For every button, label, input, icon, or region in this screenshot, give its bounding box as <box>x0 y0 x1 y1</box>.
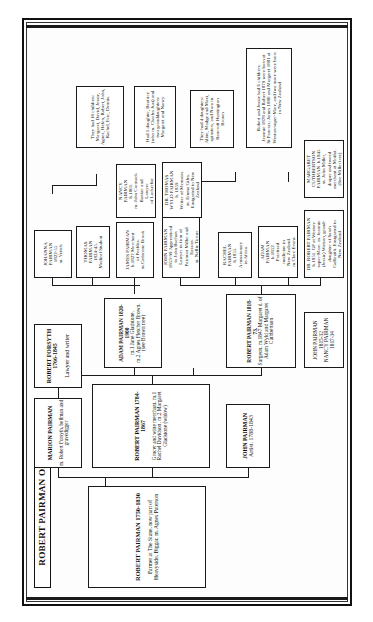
person-box-john-artist: JOHN PAIRMAN Artist. 1788-1843 <box>226 404 270 468</box>
person-box-adam-1852: ADAMPAIRMANb.1852Practisedmedicine inNew… <box>258 226 298 278</box>
connector <box>58 388 59 398</box>
chart-viewport: ROBERT PAIRMAN OF BIGGAR <box>30 28 344 594</box>
chart-canvas: ROBERT PAIRMAN OF BIGGAR <box>30 28 344 594</box>
connector <box>58 468 59 478</box>
connector <box>235 172 236 182</box>
connector-bus-g3b <box>52 285 140 286</box>
genealogy-chart-page: ROBERT PAIRMAN OF BIGGAR <box>0 0 373 622</box>
person-box-james-1827: JAMES PAIRMANb.1827 Merchantof Peebles.m… <box>116 222 154 278</box>
connector <box>261 286 262 294</box>
person-box-root: ROBERT PAIRMAN 1750-1830 Farmer at The S… <box>88 486 206 588</box>
connector <box>134 368 135 376</box>
connector <box>152 376 153 384</box>
person-box-robert-forsyth: ROBERT FORSYTH 1766-1845 Lawyer and writ… <box>34 324 82 388</box>
person-box-thomas-wyld: DR. THOMASWYLD PAIRMANb. 1859Writer of M… <box>162 162 202 218</box>
person-box-robert-surgeon: ROBERT PAIRMAN 1818-73. Surgeon. m.1847 … <box>226 294 296 368</box>
person-box-marion: MARION PAIRMAN m. Robert Forsyth, bellma… <box>34 398 82 468</box>
connector <box>92 278 93 286</box>
person-box-nancy-1861: NANCYPAIRMANb.1861.m. John CormackBanker… <box>116 164 156 218</box>
note-box-six-children: Robert and Jessie had 6 children:Jeannie… <box>246 48 292 148</box>
bottom-rule <box>26 597 348 600</box>
connector <box>152 468 153 478</box>
connector <box>52 185 96 186</box>
note-box-one-daughter: Had 1 daughter, Beatrice(who m. Charles … <box>134 86 176 148</box>
connector-bus-g3a <box>180 285 320 286</box>
connector <box>52 186 53 194</box>
person-box-margaret-cuthbertson: MARGARETCUTHBERTSONPAIRMAN. b.1845m. Joh… <box>304 140 344 198</box>
connector-bus-g1 <box>58 477 248 478</box>
connector <box>235 278 236 286</box>
connector <box>105 478 106 486</box>
person-box-thomas-1824: THOMASPAIRMAN1824-45.Medical Student <box>76 226 110 278</box>
connector <box>193 368 194 376</box>
person-box-rachel: RACHELPAIRMANb.1855.A missionaryin Afric… <box>218 232 252 278</box>
connector <box>134 278 135 286</box>
person-box-john-1853: JOHN PAIRMAN1853-99 Apprenticedto John B… <box>162 216 200 278</box>
connector-bus-g2 <box>76 375 261 376</box>
note-box-ten-children: They had 10 children:Margaret, David, Je… <box>76 86 124 148</box>
spacer <box>206 276 208 278</box>
note-box-four-daughters: They had 4 daughters:Aline, Madge and Ma… <box>190 90 234 148</box>
connector <box>52 278 53 286</box>
connector <box>248 468 249 478</box>
connector <box>96 174 97 186</box>
person-box-adam-1820: ADAM PAIRMAN 1820-1900 m.1 Jane Gladston… <box>104 298 162 368</box>
person-box-johanna: JOHANNAPAIRMAN1822-55m. Veitch <box>34 230 72 278</box>
connector <box>134 286 135 294</box>
connector <box>288 278 289 286</box>
connector <box>261 368 262 376</box>
person-box-dr-robert-1851: DR. ROBERT PAIRMANb.1851. GP at Weston-s… <box>304 210 344 278</box>
connector <box>180 278 181 286</box>
connector <box>288 172 289 182</box>
person-box-john-nancy: JOHN PAIRMAN1815-32NANCY PAIRMAN1817-34 <box>304 312 344 368</box>
person-box-robert-1784: ROBERT PAIRMAN 1784-1867 Grocer and wine… <box>92 384 210 468</box>
connector <box>320 278 321 286</box>
